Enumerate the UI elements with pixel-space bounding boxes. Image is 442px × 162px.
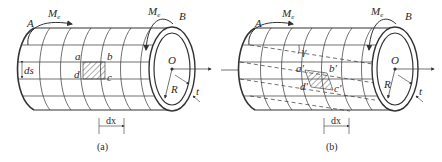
label-moment-right: Me — [370, 5, 383, 19]
panel-a: A Me Me B a b c d ds O R t dx (a) — [18, 5, 212, 153]
panel-b: A Me Me B γ a' b' c' d' O R t dx (b) — [221, 5, 434, 153]
label-corner-c: c — [107, 71, 112, 83]
label-center-O: O — [391, 54, 399, 66]
label-radius-R: R — [170, 83, 178, 95]
label-corner-a: a' — [296, 62, 305, 74]
label-corner-d: d — [74, 68, 80, 80]
caption-a: (a) — [97, 141, 108, 153]
label-corner-d: d' — [300, 80, 309, 92]
label-corner-b: b — [107, 50, 113, 62]
label-end-A: A — [254, 17, 262, 29]
caption-b: (b) — [326, 141, 338, 153]
label-end-A: A — [26, 17, 34, 29]
label-moment-right: Me — [147, 5, 160, 19]
label-dx: dx — [331, 115, 341, 126]
label-ds: ds — [24, 64, 34, 76]
label-radius-R: R — [383, 78, 391, 90]
label-moment-left: Me — [47, 7, 60, 21]
label-end-B: B — [405, 10, 412, 22]
label-thickness-t: t — [196, 85, 200, 97]
moment-arrow-left — [28, 22, 72, 45]
element-abcd — [83, 62, 105, 79]
label-thickness-t: t — [419, 85, 423, 97]
label-dx: dx — [106, 115, 116, 126]
label-corner-a: a — [75, 50, 81, 62]
label-corner-c: c' — [334, 82, 342, 94]
torsion-figure: A Me Me B a b c d ds O R t dx (a) — [0, 0, 442, 162]
circumferential-lines — [261, 28, 373, 110]
label-end-B: B — [179, 10, 186, 22]
label-gamma: γ — [302, 45, 307, 57]
label-corner-b: b' — [329, 62, 338, 74]
label-center-O: O — [168, 54, 176, 66]
tube-body — [239, 28, 395, 110]
label-moment-left: Me — [281, 7, 294, 21]
